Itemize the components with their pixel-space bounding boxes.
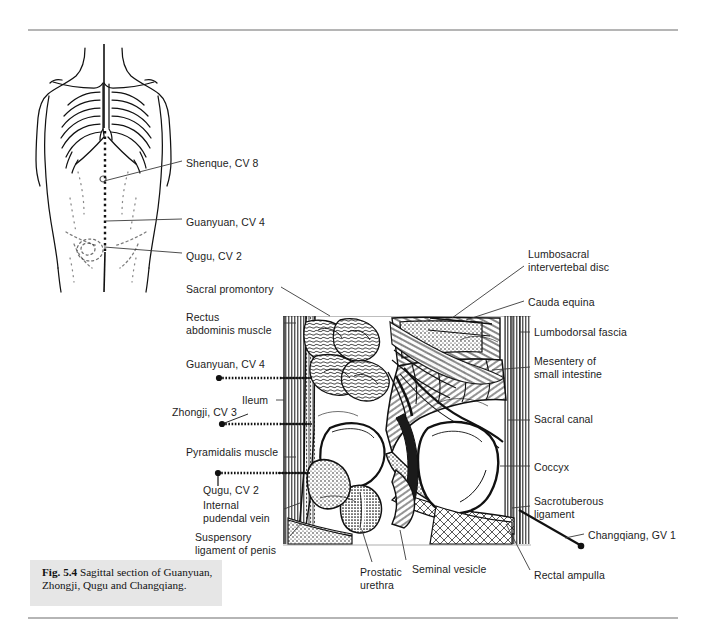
sagittal-section-illustration [0, 0, 706, 641]
label-internal-pudendal-vein: Internal pudendal vein [203, 499, 270, 524]
label-changqiang-gv1: Changqiang, GV 1 [588, 529, 676, 542]
label-qugu-cv2: Qugu, CV 2 [203, 484, 259, 497]
label-lumbosacral-intervertebral-disc: Lumbosacral intervertebal disc [528, 248, 609, 273]
label-rectus-abdominis-muscle: Rectus abdominis muscle [186, 311, 272, 336]
label-lumbodorsal-fascia: Lumbodorsal fascia [534, 326, 627, 339]
label-sacral-promontory: Sacral promontory [186, 283, 273, 296]
figure-number: Fig. 5.4 [42, 566, 77, 578]
label-rectal-ampulla: Rectal ampulla [534, 569, 605, 582]
label-guanyuan-cv8-torso: Guanyuan, CV 4 [186, 216, 265, 229]
label-prostatic-urethra: Prostatic urethra [360, 566, 402, 591]
label-ileum: Ileum [242, 394, 268, 407]
label-pyramidalis-muscle: Pyramidalis muscle [186, 446, 278, 459]
label-shenque-cv8: Shenque, CV 8 [186, 157, 259, 170]
label-cauda-equina: Cauda equina [528, 296, 595, 309]
label-sacrotuberous-ligament: Sacrotuberous ligament [534, 495, 604, 520]
label-sacral-canal: Sacral canal [534, 413, 593, 426]
leader-sacral-promontory [281, 287, 330, 316]
label-mesentery-of-small-intestine: Mesentery of small intestine [534, 355, 602, 380]
label-seminal-vesicle: Seminal vesicle [412, 563, 486, 576]
label-coccyx: Coccyx [534, 461, 569, 474]
leader-lumbosacral-disc [452, 266, 524, 318]
label-qugu-cv2-torso: Qugu, CV 2 [186, 250, 242, 263]
figure-caption: Fig. 5.4 Sagittal section of Guanyuan, Z… [42, 566, 222, 593]
label-zhongji-cv3: Zhongji, CV 3 [172, 406, 237, 419]
label-suspensory-ligament-of-penis: Suspensory ligament of penis [195, 531, 276, 556]
label-guanyuan-cv4: Guanyuan, CV 4 [186, 358, 265, 371]
figure-page: Shenque, CV 8 Guanyuan, CV 4 Qugu, CV 2 … [0, 0, 706, 641]
